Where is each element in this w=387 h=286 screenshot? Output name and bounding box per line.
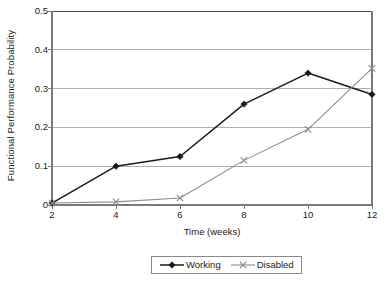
- chart-legend: WorkingDisabled: [151, 256, 302, 274]
- data-point-marker: [305, 70, 311, 76]
- data-point-marker: [369, 91, 375, 97]
- x-tick-label: 12: [352, 209, 387, 221]
- data-point-marker: [241, 157, 247, 163]
- legend-label: Disabled: [257, 259, 294, 271]
- data-series-layer: [49, 65, 375, 206]
- y-tick-label: 0.5: [24, 6, 48, 16]
- legend-swatch-diamond-line-icon: [159, 259, 185, 271]
- legend-swatch-x-line-icon: [230, 259, 256, 271]
- plot-canvas: [52, 11, 372, 205]
- data-point-marker: [113, 163, 119, 169]
- data-point-marker: [169, 262, 175, 268]
- y-tick-label: 0.4: [24, 45, 48, 55]
- y-axis-title: Functional Performance Probability: [2, 3, 20, 208]
- x-tick-label: 2: [32, 209, 72, 221]
- legend-entry-disabled: Disabled: [230, 259, 294, 271]
- line-chart: Functional Performance Probability 00.10…: [0, 0, 387, 286]
- x-tick-label: 6: [160, 209, 200, 221]
- x-tick-label: 8: [224, 209, 264, 221]
- legend-label: Working: [186, 259, 221, 271]
- x-tick-label: 10: [288, 209, 328, 221]
- series-line: [52, 73, 372, 203]
- y-tick-label: 0.3: [24, 84, 48, 94]
- x-axis-title: Time (weeks): [52, 226, 372, 238]
- y-tick-label: 0.1: [24, 161, 48, 171]
- legend-entry-working: Working: [159, 259, 221, 271]
- x-axis-tick-labels: 24681012: [52, 209, 372, 223]
- y-axis-tick-labels: 00.10.20.30.40.5: [20, 0, 48, 286]
- series-disabled: [49, 65, 375, 206]
- x-tick-label: 4: [96, 209, 136, 221]
- y-tick-label: 0.2: [24, 122, 48, 132]
- plot-area: [52, 11, 372, 205]
- series-working: [49, 70, 375, 206]
